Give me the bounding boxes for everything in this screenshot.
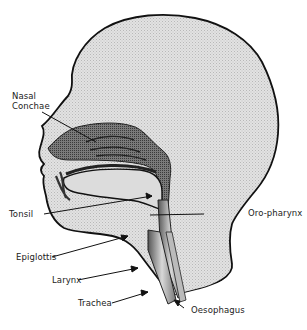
label-tonsil: Tonsil bbox=[9, 209, 33, 219]
label-trachea: Trachea bbox=[78, 298, 112, 308]
label-larynx: Larynx bbox=[52, 275, 82, 285]
label-oro-pharynx: Oro-pharynx bbox=[248, 208, 302, 218]
label-nasal-conchae: Nasal Conchae bbox=[12, 91, 50, 111]
label-epiglottis: Epiglottis bbox=[16, 252, 57, 262]
label-nasal-conchae-line2: Conchae bbox=[12, 101, 50, 111]
head-cross-section-diagram bbox=[0, 0, 307, 330]
label-nasal-conchae-line1: Nasal bbox=[12, 91, 50, 101]
label-oesophagus: Oesophagus bbox=[191, 305, 245, 315]
